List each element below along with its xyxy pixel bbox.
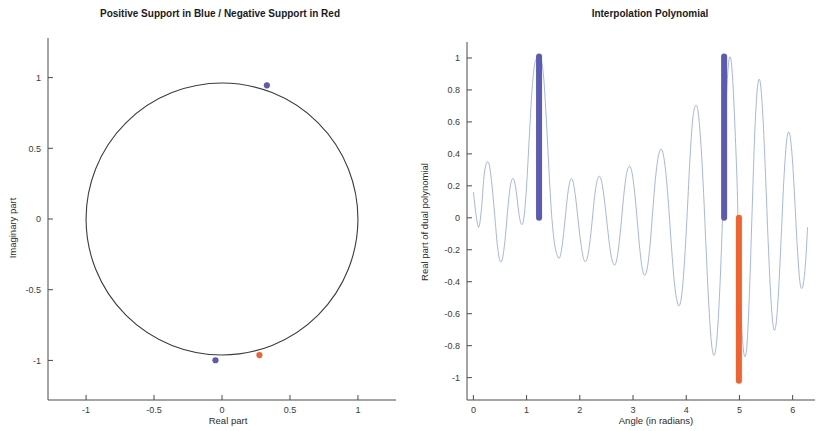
support-point-markers	[212, 82, 270, 363]
right-x-tick: 5	[737, 405, 742, 415]
right-y-tick: -0.2	[444, 245, 460, 255]
left-y-tick: 1	[36, 73, 41, 83]
support-point-marker	[256, 352, 262, 358]
interpolation-panel: Interpolation Polynomial -1-0.8-0.6-0.4-…	[411, 0, 822, 431]
right-y-tick: -0.4	[444, 277, 460, 287]
right-y-tick: -0.6	[444, 309, 460, 319]
right-y-tick: 1	[455, 53, 460, 63]
left-tick-marks	[48, 78, 358, 400]
right-x-tick: 4	[684, 405, 689, 415]
right-y-tick: 0.2	[447, 181, 460, 191]
right-y-tick: 0.6	[447, 117, 460, 127]
right-x-tick: 1	[524, 405, 529, 415]
right-y-tick-labels: -1-0.8-0.6-0.4-0.200.20.40.60.81	[444, 53, 460, 383]
right-x-tick: 0	[471, 405, 476, 415]
right-x-axis-label: Angle (in radians)	[619, 415, 693, 426]
right-axis-lines	[467, 42, 815, 400]
unit-circle-curve	[86, 83, 358, 355]
right-x-tick: 2	[577, 405, 582, 415]
left-y-tick-labels: -1-0.500.51	[25, 73, 41, 366]
left-y-tick: 0	[36, 214, 41, 224]
dual-polynomial-curve	[473, 56, 807, 357]
right-y-tick: 0.8	[447, 85, 460, 95]
right-y-tick: -0.8	[444, 341, 460, 351]
support-bar-markers	[539, 56, 739, 380]
right-y-tick: 0	[455, 213, 460, 223]
right-y-tick: 0.4	[447, 149, 460, 159]
right-x-tick-labels: 0123456	[471, 405, 795, 415]
support-point-marker	[212, 357, 218, 363]
left-axis-lines	[48, 38, 396, 400]
left-y-axis-label: Imaginary part	[7, 197, 18, 258]
left-x-tick-labels: -1-0.500.51	[82, 405, 360, 415]
support-point-marker	[264, 82, 270, 88]
right-tick-marks	[467, 58, 793, 400]
figure-canvas: Positive Support in Blue / Negative Supp…	[0, 0, 822, 431]
left-y-tick: 0.5	[28, 144, 41, 154]
left-x-tick: 1	[355, 405, 360, 415]
left-y-tick: -0.5	[25, 285, 41, 295]
unit-circle-panel: Positive Support in Blue / Negative Supp…	[0, 0, 411, 431]
right-x-tick: 3	[631, 405, 636, 415]
right-y-axis-label: Real part of dual polynomial	[419, 163, 430, 281]
right-plot-title: Interpolation Polynomial	[592, 8, 709, 19]
left-x-tick: 0.5	[284, 405, 297, 415]
unit-circle-plot: Positive Support in Blue / Negative Supp…	[0, 0, 411, 431]
right-x-tick: 6	[790, 405, 795, 415]
left-plot-title: Positive Support in Blue / Negative Supp…	[100, 8, 340, 19]
left-x-tick: 0	[219, 405, 224, 415]
left-x-tick: -0.5	[146, 405, 162, 415]
interpolation-polynomial-plot: Interpolation Polynomial -1-0.8-0.6-0.4-…	[411, 0, 822, 431]
right-y-tick: -1	[452, 373, 460, 383]
left-x-tick: -1	[82, 405, 90, 415]
left-x-axis-label: Real part	[209, 415, 248, 426]
left-y-tick: -1	[33, 356, 41, 366]
